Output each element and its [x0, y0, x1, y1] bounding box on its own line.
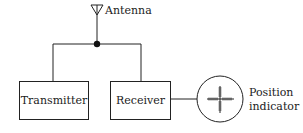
receiver-block: Receiver: [111, 82, 171, 120]
crosshair-scope-icon: [197, 76, 243, 122]
junction-dot: [94, 41, 100, 47]
receiver-label: Receiver: [116, 94, 166, 107]
transmitter-label: Transmitter: [21, 94, 88, 107]
transmitter-block: Transmitter: [20, 82, 89, 120]
radar-block-diagram: Antenna Transmitter Receiver: [0, 0, 303, 133]
indicator-label-line1: Position: [249, 86, 293, 99]
antenna-icon: [91, 5, 103, 15]
antenna-label: Antenna: [104, 4, 152, 17]
indicator-label-line2: indicator: [249, 100, 300, 113]
